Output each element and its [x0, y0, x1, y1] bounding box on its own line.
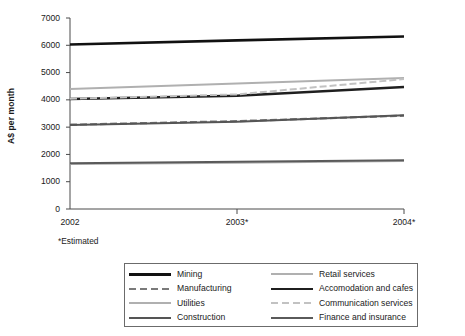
series-line: [70, 37, 404, 45]
legend-item[interactable]: Retail services: [271, 267, 415, 282]
legend-grid: MiningRetail servicesManufacturingAccomo…: [129, 267, 415, 325]
legend-label: Communication services: [319, 299, 413, 308]
legend-item[interactable]: Manufacturing: [129, 282, 271, 297]
series-lines: [70, 37, 404, 164]
chart-container: A$ per month 010002000300040005000600070…: [0, 0, 465, 336]
legend-label: Utilities: [177, 299, 205, 308]
x-tick-label: 2002: [40, 217, 100, 227]
legend-item[interactable]: Construction: [129, 311, 271, 326]
legend-item[interactable]: Utilities: [129, 296, 271, 311]
legend-item[interactable]: Finance and insurance: [271, 311, 415, 326]
legend-item[interactable]: Communication services: [271, 296, 415, 311]
legend-label: Construction: [177, 313, 225, 322]
legend-item[interactable]: Accomodation and cafes: [271, 282, 415, 297]
footnote: *Estimated: [58, 236, 99, 246]
axis-lines: [66, 18, 404, 214]
legend-label: Retail services: [319, 270, 375, 279]
legend-label: Manufacturing: [177, 284, 231, 293]
chart-legend: MiningRetail servicesManufacturingAccomo…: [124, 263, 418, 327]
series-line: [70, 115, 404, 125]
legend-label: Accomodation and cafes: [319, 284, 413, 293]
legend-label: Mining: [177, 270, 202, 279]
x-tick-label: 2004*: [374, 217, 434, 227]
x-tick-label: 2003*: [207, 217, 267, 227]
legend-item[interactable]: Mining: [129, 267, 271, 282]
legend-label: Finance and insurance: [319, 313, 406, 322]
